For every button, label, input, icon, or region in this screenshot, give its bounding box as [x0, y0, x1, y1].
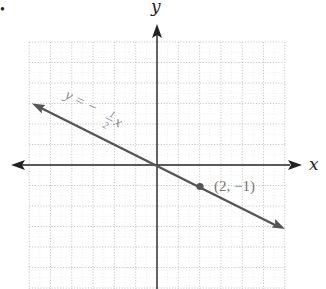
coordinate-plane: • x y (2, −1) y = − 1 2 x — [0, 0, 326, 289]
point-2-neg1 — [196, 183, 203, 190]
plotted-line — [32, 104, 285, 230]
equation-label: y = − 1 2 x — [57, 85, 126, 136]
x-axis-right-arrow-icon — [288, 160, 302, 170]
y-axis-label: y — [150, 0, 161, 16]
y-axis — [152, 24, 162, 289]
equation-text: y = − — [61, 85, 101, 116]
point-label: (2, −1) — [214, 178, 255, 195]
equation-denominator: 2 — [101, 119, 110, 131]
x-axis-label: x — [309, 154, 319, 174]
item-bullet: • — [0, 2, 5, 17]
